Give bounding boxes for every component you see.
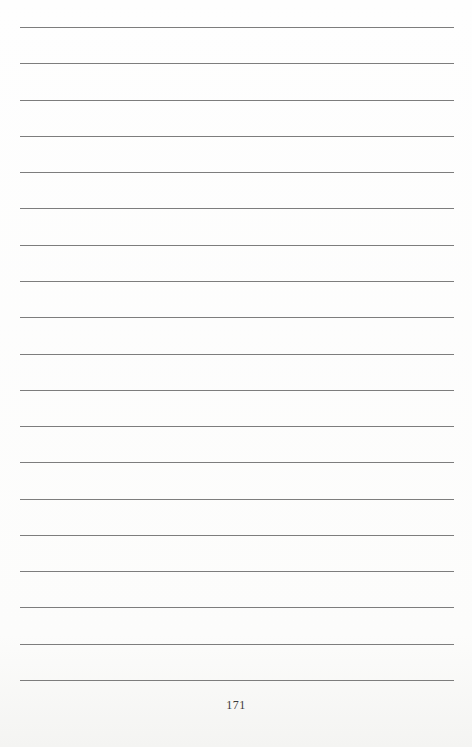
ruled-line bbox=[20, 644, 454, 645]
ruled-line bbox=[20, 462, 454, 463]
ruled-line bbox=[20, 100, 454, 101]
ruled-line bbox=[20, 571, 454, 572]
ruled-line bbox=[20, 390, 454, 391]
ruled-line bbox=[20, 136, 454, 137]
ruled-line bbox=[20, 172, 454, 173]
ruled-line bbox=[20, 317, 454, 318]
ruled-line bbox=[20, 281, 454, 282]
ruled-line bbox=[20, 245, 454, 246]
ruled-line bbox=[20, 680, 454, 681]
ruled-line bbox=[20, 63, 454, 64]
ruled-line bbox=[20, 426, 454, 427]
ruled-line bbox=[20, 208, 454, 209]
ruled-line bbox=[20, 607, 454, 608]
ruled-page: 171 bbox=[0, 0, 472, 747]
ruled-line bbox=[20, 27, 454, 28]
ruled-line bbox=[20, 499, 454, 500]
page-number: 171 bbox=[0, 698, 472, 713]
ruled-line bbox=[20, 535, 454, 536]
ruled-line bbox=[20, 354, 454, 355]
